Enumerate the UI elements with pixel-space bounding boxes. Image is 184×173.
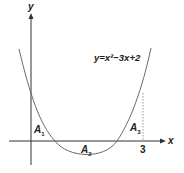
y-axis-label: y [28, 2, 34, 12]
region-a1-sub: 1 [41, 131, 44, 137]
parabola-curve [19, 48, 151, 155]
region-label-a2: A2 [81, 145, 92, 157]
x-axis-arrow-icon [160, 139, 166, 144]
y-axis-arrow-icon [29, 13, 34, 19]
equation-label: y=x²−3x+2 [94, 53, 140, 63]
region-a3-sub: 3 [137, 129, 140, 135]
graph-canvas [0, 0, 184, 173]
region-label-a1: A1 [34, 125, 45, 137]
x-tick-label-3: 3 [140, 145, 146, 155]
region-a2-sub: 2 [88, 151, 91, 157]
region-label-a3: A3 [130, 123, 141, 135]
x-axis-label: x [168, 136, 174, 146]
